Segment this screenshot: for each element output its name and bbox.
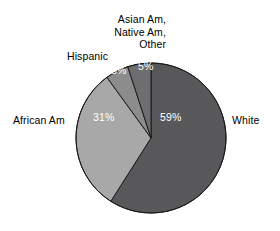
slice-label-african-am: African Am — [13, 114, 65, 127]
slice-percent-white: 59% — [160, 111, 181, 123]
pie-chart-figure: African Am White Hispanic Asian Am, Nati… — [0, 0, 280, 231]
slice-label-asian-native-other: Asian Am, Native Am, Other — [88, 13, 166, 51]
slice-label-white: White — [232, 114, 259, 127]
slice-label-asian-native-other-line2: Native Am, — [114, 26, 166, 38]
slice-percent-hispanic: 5% — [111, 64, 126, 76]
slice-percent-african-am: 31% — [93, 111, 114, 123]
slice-label-asian-native-other-line3: Other — [139, 38, 166, 50]
slice-percent-asian-native-other: 5% — [138, 60, 153, 72]
slice-label-hispanic: Hispanic — [67, 50, 108, 63]
slice-label-asian-native-other-line1: Asian Am, — [118, 13, 166, 25]
